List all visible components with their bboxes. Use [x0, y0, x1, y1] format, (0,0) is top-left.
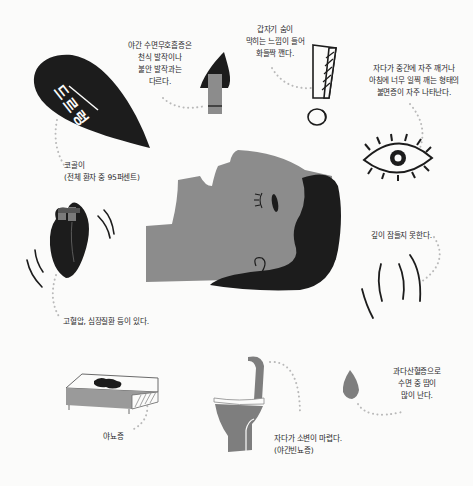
label-enuresis: 야뇨증	[103, 431, 123, 443]
sweat-drop-icon	[343, 370, 359, 399]
sleep-apnea-infographic: 드르렁 코골이 (전체 환자 중 95퍼센트) 야간 수면무호흡증은 천식 발작…	[0, 0, 473, 486]
clothespin-nose-icon	[200, 52, 230, 114]
label-nocturia: 자다가 소변이 마렵다. (야간빈뇨증)	[274, 433, 342, 457]
open-eye-icon	[364, 134, 432, 181]
toilet-icon	[214, 356, 264, 452]
heart-icon	[50, 202, 89, 278]
label-snoring: 코골이 (전체 환자 중 95퍼센트)	[64, 160, 140, 184]
label-hypertension: 고혈압, 심장질환 등이 있다.	[63, 316, 149, 328]
label-sweating: 과다산혈증으로 수면 중 땀이 많이 난다.	[372, 366, 462, 402]
wet-bed-icon	[66, 374, 158, 414]
motion-lines-icon	[362, 255, 420, 318]
sleeping-face-icon	[146, 150, 341, 290]
label-sudden-breath: 갑자기 숨이 막히는 느낌이 들어 화들짝 깬다.	[236, 24, 314, 60]
label-apnea-vs-asthma: 야간 수면무호흡증은 천식 발작이나 불안 발작과는 다르다.	[120, 40, 200, 88]
label-deep-sleep: 깊이 잠들지 못한다.	[371, 230, 432, 242]
label-insomnia: 자다가 중간에 자주 깨거나 아침에 너무 일찍 깨는 형태의 불면증이 자주 …	[357, 63, 471, 99]
